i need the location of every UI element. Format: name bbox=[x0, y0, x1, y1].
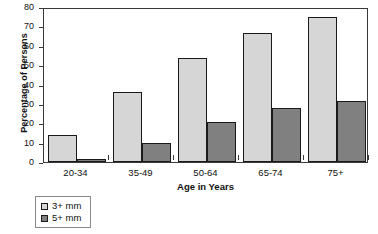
bar-chart: Percentage of Persons 01020304050607080 … bbox=[0, 0, 378, 234]
y-axis-tick-label: 60 bbox=[24, 41, 34, 52]
legend-swatch-icon bbox=[41, 203, 48, 210]
y-axis-tick-label: 10 bbox=[24, 138, 34, 149]
y-axis-tick-label: 80 bbox=[24, 2, 34, 13]
bar bbox=[243, 33, 272, 162]
plot-area bbox=[43, 8, 368, 163]
bar bbox=[178, 58, 207, 162]
y-axis-tick-label: 20 bbox=[24, 118, 34, 129]
y-axis-tick-label: 70 bbox=[24, 21, 34, 32]
legend-label: 5+ mm bbox=[52, 212, 81, 224]
bar bbox=[337, 101, 366, 162]
bar bbox=[308, 17, 337, 162]
bar-group bbox=[304, 9, 369, 162]
bar bbox=[77, 159, 106, 162]
legend: 3+ mm5+ mm bbox=[35, 196, 91, 228]
bar bbox=[48, 135, 77, 162]
y-axis-tick-label: 50 bbox=[24, 60, 34, 71]
bar bbox=[272, 108, 301, 162]
y-axis-tick-label: 40 bbox=[24, 80, 34, 91]
x-axis-category-label: 35-49 bbox=[108, 167, 173, 178]
bar bbox=[113, 92, 142, 162]
legend-swatch-icon bbox=[41, 215, 48, 222]
x-axis-category-label: 50-64 bbox=[173, 167, 238, 178]
legend-label: 3+ mm bbox=[52, 200, 81, 212]
x-axis-tick-mark bbox=[43, 155, 44, 160]
x-axis-tick-mark bbox=[303, 155, 304, 160]
y-axis-tick-mark bbox=[39, 163, 43, 164]
x-axis-tick-mark bbox=[108, 155, 109, 160]
x-axis-tick-mark bbox=[173, 155, 174, 160]
legend-item: 5+ mm bbox=[41, 212, 81, 224]
x-axis-tick-mark bbox=[368, 155, 369, 160]
bar bbox=[142, 143, 171, 162]
legend-item: 3+ mm bbox=[41, 200, 81, 212]
y-axis-tick-label: 30 bbox=[24, 99, 34, 110]
bar bbox=[207, 122, 236, 162]
y-axis-tick-label: 0 bbox=[29, 157, 34, 168]
x-axis-category-label: 20-34 bbox=[43, 167, 108, 178]
bar-group bbox=[174, 9, 239, 162]
bar-group bbox=[44, 9, 109, 162]
x-axis-category-label: 65-74 bbox=[238, 167, 303, 178]
x-axis-title: Age in Years bbox=[43, 181, 368, 192]
bar-group bbox=[109, 9, 174, 162]
x-axis-category-label: 75+ bbox=[303, 167, 368, 178]
bar-group bbox=[239, 9, 304, 162]
x-axis-tick-mark bbox=[238, 155, 239, 160]
